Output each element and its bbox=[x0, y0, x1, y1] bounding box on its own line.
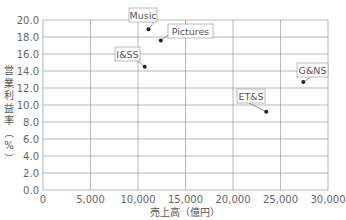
data-point-pictures: Pictures bbox=[159, 24, 213, 42]
scatter-chart: 0.02.04.06.08.010.012.014.016.018.020.0 … bbox=[0, 0, 346, 220]
y-title-char: 業 bbox=[4, 77, 14, 89]
point-marker bbox=[301, 80, 305, 84]
point-label: ET&S bbox=[238, 91, 263, 102]
y-tick-label: 6.0 bbox=[23, 134, 39, 145]
point-marker bbox=[146, 27, 150, 31]
x-tick-label: 20,000 bbox=[216, 194, 251, 205]
data-point-ets: ET&S bbox=[237, 89, 268, 114]
point-label: Music bbox=[129, 10, 156, 21]
point-label: Pictures bbox=[172, 26, 210, 37]
y-axis-ticks: 0.02.04.06.08.010.012.014.016.018.020.0 bbox=[17, 15, 39, 196]
y-axis-title: 営業利益率（%） bbox=[3, 64, 14, 163]
data-point-music: Music bbox=[129, 8, 157, 31]
leader-line bbox=[249, 103, 266, 112]
data-point-iss: I&SS bbox=[115, 47, 147, 69]
x-axis-title: 売上高（億円） bbox=[150, 206, 220, 218]
x-tick-label: 0 bbox=[40, 194, 46, 205]
y-title-char: % bbox=[4, 140, 14, 151]
y-tick-label: 16.0 bbox=[17, 49, 39, 60]
y-tick-label: 8.0 bbox=[23, 117, 39, 128]
y-title-char: 益 bbox=[4, 102, 14, 114]
y-tick-label: 0.0 bbox=[23, 185, 39, 196]
y-tick-label: 4.0 bbox=[23, 151, 39, 162]
data-point-gns: G&NS bbox=[297, 63, 328, 84]
x-axis-ticks: 05,00010,00015,00020,00025,00030,000 bbox=[40, 194, 346, 205]
x-tick-label: 30,000 bbox=[311, 194, 346, 205]
y-tick-label: 12.0 bbox=[17, 83, 39, 94]
y-tick-label: 2.0 bbox=[23, 168, 39, 179]
x-tick-label: 5,000 bbox=[76, 194, 105, 205]
point-marker bbox=[264, 110, 268, 114]
y-title-char: （ bbox=[3, 128, 14, 138]
grid-lines bbox=[43, 20, 328, 190]
y-title-char: 営 bbox=[4, 64, 14, 76]
y-tick-label: 14.0 bbox=[17, 66, 39, 77]
y-title-char: ） bbox=[3, 153, 14, 163]
x-tick-label: 25,000 bbox=[263, 194, 298, 205]
x-tick-label: 15,000 bbox=[168, 194, 203, 205]
y-tick-label: 20.0 bbox=[17, 15, 39, 26]
point-label: I&SS bbox=[116, 49, 138, 60]
y-tick-label: 10.0 bbox=[17, 100, 39, 111]
y-title-char: 率 bbox=[4, 114, 14, 126]
data-points: MusicPicturesI&SSG&NSET&S bbox=[115, 8, 328, 114]
point-label: G&NS bbox=[299, 65, 327, 76]
point-marker bbox=[143, 65, 147, 69]
x-tick-label: 10,000 bbox=[121, 194, 156, 205]
y-tick-label: 18.0 bbox=[17, 32, 39, 43]
y-title-char: 利 bbox=[4, 90, 14, 101]
point-marker bbox=[159, 38, 163, 42]
